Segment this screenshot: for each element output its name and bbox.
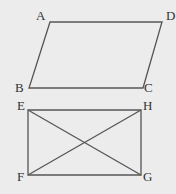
vertex-label-f: F: [17, 169, 24, 184]
vertex-label-c: C: [144, 80, 153, 95]
vertex-label-e: E: [17, 98, 25, 113]
vertex-label-a: A: [36, 8, 46, 23]
vertex-label-b: B: [15, 80, 24, 95]
geometry-diagram: A D C B E H G F: [0, 0, 176, 194]
vertex-label-d: D: [166, 8, 175, 23]
vertex-label-g: G: [143, 169, 152, 184]
parallelogram-abcd: [29, 22, 162, 88]
vertex-label-h: H: [143, 98, 152, 113]
